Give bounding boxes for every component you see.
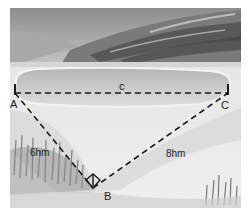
lake-triangle-diagram: A C B c 6hm 8hm (0, 0, 251, 217)
point-a-label: A (10, 98, 18, 110)
background-painting (10, 8, 241, 208)
segment-bc-label: 8hm (166, 148, 185, 159)
point-c-label: C (221, 99, 229, 111)
segment-ac-label: c (119, 80, 125, 92)
segment-ab-label: 6hm (30, 147, 49, 158)
point-b-label: B (104, 190, 111, 202)
